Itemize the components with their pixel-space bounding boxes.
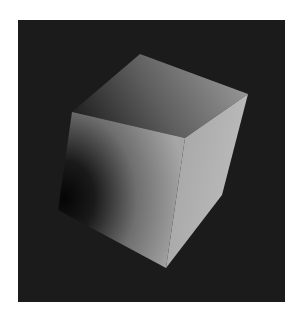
cube-front-face <box>58 112 185 268</box>
cube-render <box>0 0 300 315</box>
